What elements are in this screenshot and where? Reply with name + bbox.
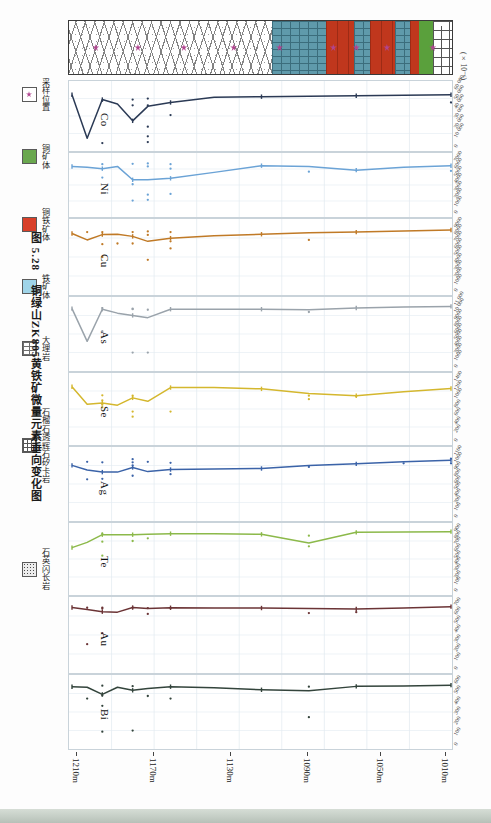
element-label-Se: Se: [99, 406, 111, 418]
element-label-As: As: [99, 331, 111, 344]
legend-item-label: 石英闪长岩: [40, 548, 48, 590]
y-tick-label: 0: [452, 209, 459, 214]
panel-Bi: Bi: [68, 674, 453, 750]
depth-axis: 1210m1170m1130m1090m1050m1010m: [68, 752, 453, 756]
y-tick-label: 0: [452, 437, 459, 442]
panel-As: As: [68, 296, 453, 372]
element-label-Au: Au: [99, 632, 111, 646]
y-tick-label: 600: [452, 605, 461, 615]
element-label-Co: Co: [99, 113, 111, 127]
y-tick-label: 0: [452, 513, 459, 518]
y-tick-label: 300: [452, 633, 461, 643]
element-label-Ag: Ag: [99, 481, 111, 495]
legend-item-label: 铜矿体: [40, 144, 48, 169]
scan-edge-band: [0, 809, 491, 823]
depth-tick: [445, 752, 446, 756]
y-tick-label: 0: [452, 363, 459, 368]
y-tick-label: 100: [452, 726, 461, 736]
y-tick-label: 0: [452, 741, 459, 746]
panel-Se: Se: [68, 372, 453, 446]
depth-tick: [307, 752, 308, 756]
y-tick-label: 400: [452, 624, 461, 634]
lithology-segment-copper: [370, 21, 395, 74]
element-label-Bi: Bi: [99, 709, 111, 720]
depth-tick-label: 1050m: [375, 758, 385, 783]
quartz-diorite-pattern-icon: [22, 562, 37, 577]
panel-Te: Te: [68, 522, 453, 596]
depth-tick: [230, 752, 231, 756]
legend-item-2: 铜矿体: [22, 144, 48, 169]
y-tick-label: 700: [452, 596, 461, 606]
y-tick-label: 200: [452, 716, 461, 726]
y-axis-tick-labels: 010 00020 00030 00040 00050 00060 000010…: [455, 80, 489, 752]
depth-tick: [380, 752, 381, 756]
figure-page: 采样位置铜矿体铜铁矿体铁矿体大理岩石榴石透辉石矽卡岩石英闪长岩 图 5.28 铜…: [0, 0, 491, 823]
y-tick-label: 0: [452, 587, 459, 592]
y-tick-label: 400: [452, 695, 461, 705]
lithology-segment-copper: [326, 21, 355, 74]
depth-tick-label: 1130m: [225, 758, 235, 783]
legend-item-label: 采样位置: [40, 78, 48, 112]
panel-Ni: Ni: [68, 152, 453, 218]
depth-tick: [76, 752, 77, 756]
lithology-segment-marble: [69, 21, 272, 74]
sample-star-icon: [22, 87, 37, 102]
red-orebody-icon: [22, 217, 37, 232]
lithology-segment-brick: [433, 21, 452, 74]
panel-Co: Co: [68, 80, 453, 152]
lithology-segment-green: [419, 21, 432, 74]
lithology-segment-copper: [410, 21, 420, 74]
y-tick-label: 0: [452, 665, 459, 670]
lithology-column: [68, 20, 453, 75]
depth-tick: [153, 752, 154, 756]
caption-text: 铜绿山ZK805黄铁矿微量元素垂向变化图: [30, 285, 42, 502]
caption-number: 图 5.28: [30, 232, 42, 271]
y-tick-label: 500: [452, 614, 461, 624]
panel-Ag: Ag: [68, 446, 453, 522]
depth-tick-label: 1170m: [148, 758, 158, 783]
legend-item-7: 石英闪长岩: [22, 548, 48, 590]
lithology-segment-skarn: [395, 21, 410, 74]
legend-item-1: 采样位置: [22, 78, 48, 112]
depth-tick-label: 1210m: [71, 758, 81, 783]
y-tick-label: 500: [452, 685, 461, 695]
depth-tick-label: 1090m: [302, 758, 312, 783]
element-label-Te: Te: [99, 556, 111, 568]
green-orebody-icon: [22, 149, 37, 164]
panel-Cu: Cu: [68, 218, 453, 296]
figure-caption: 图 5.28 铜绿山ZK805黄铁矿微量元素垂向变化图: [28, 232, 44, 502]
y-tick-label: 0: [452, 143, 459, 148]
y-tick-label: 600: [452, 674, 461, 684]
element-label-Ni: Ni: [99, 183, 111, 195]
depth-tick-label: 1010m: [440, 758, 450, 783]
chart-panels: CoNiCuAsSeAgTeAuBi: [68, 80, 453, 752]
y-tick-label: 300: [452, 705, 461, 715]
element-label-Cu: Cu: [99, 254, 111, 268]
panel-Au: Au: [68, 596, 453, 674]
